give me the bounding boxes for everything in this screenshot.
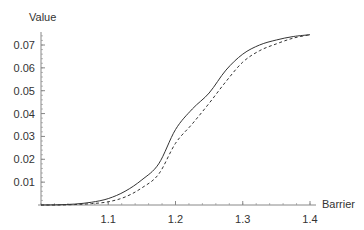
plot-area <box>41 35 310 205</box>
y-tick-label: 0.05 <box>14 85 35 97</box>
y-tick-label: 0.03 <box>14 130 35 142</box>
x-axis-label: Barrier <box>322 198 355 210</box>
line-chart: 0.010.020.030.040.050.060.07 1.11.21.31.… <box>0 0 364 230</box>
y-axis: 0.010.020.030.040.050.060.07 <box>14 32 45 205</box>
y-tick-label: 0.04 <box>14 108 35 120</box>
y-tick-label: 0.02 <box>14 153 35 165</box>
series-solid-line <box>41 35 310 205</box>
x-tick-label: 1.1 <box>101 213 116 225</box>
y-tick-label: 0.07 <box>14 39 35 51</box>
y-tick-label: 0.06 <box>14 62 35 74</box>
x-tick-label: 1.4 <box>302 213 317 225</box>
x-tick-label: 1.2 <box>168 213 183 225</box>
series-dashed-line <box>41 35 310 205</box>
y-tick-label: 0.01 <box>14 176 35 188</box>
y-axis-label: Value <box>29 11 56 23</box>
x-tick-label: 1.3 <box>235 213 250 225</box>
